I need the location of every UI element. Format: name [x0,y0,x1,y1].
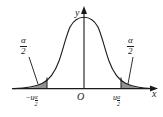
right-label-leader-line [128,57,133,84]
left-label-leader-line [29,57,38,84]
left-critical-value-label: −uα2 [26,92,38,105]
left-tick-sub-numerator: α [35,94,38,100]
left-tail-area-label: α 2 [20,36,27,56]
y-axis-label: y [75,8,79,18]
left-alpha-fraction: α 2 [20,36,27,56]
y-axis-arrowhead [81,6,87,14]
right-alpha-denominator: 2 [127,47,134,56]
left-alpha-numerator: α [20,36,27,45]
left-tick-subscript-fraction: α2 [35,94,38,107]
x-axis-label: x [152,89,156,99]
right-tick-sub-denominator: 2 [117,101,120,107]
left-alpha-denominator: 2 [20,47,27,56]
right-tail-area-label: α 2 [127,36,134,56]
left-tick-sub-denominator: 2 [35,101,38,107]
origin-label: O [77,92,84,102]
right-alpha-fraction: α 2 [127,36,134,56]
right-tick-sub-numerator: α [117,94,120,100]
right-alpha-numerator: α [127,36,134,45]
right-critical-value-label: uα2 [113,92,120,105]
right-tick-subscript-fraction: α2 [117,94,120,107]
normal-distribution-figure: α 2 α 2 y x O −uα2 uα2 [0,0,163,117]
